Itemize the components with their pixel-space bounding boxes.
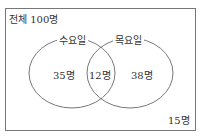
outside-count: 15명 [168,112,190,127]
intersection-count: 12명 [89,67,111,82]
wednesday-label: 수요일 [57,32,88,47]
thursday-label: 목요일 [113,32,144,47]
wednesday-only-count: 35명 [53,67,75,82]
universe-label: 전체 100명 [9,11,58,26]
thursday-only-count: 38명 [131,67,153,82]
